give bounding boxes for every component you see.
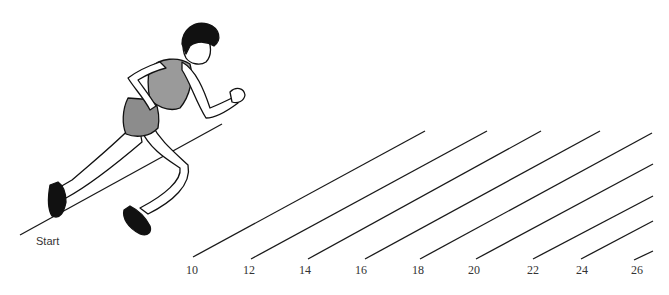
fist bbox=[230, 88, 245, 102]
distance-label-16: 16 bbox=[355, 264, 367, 276]
distance-label-18: 18 bbox=[412, 264, 424, 276]
running-track-diagram: Start 101214161820222426 bbox=[0, 0, 669, 295]
distance-label-10: 10 bbox=[186, 264, 198, 276]
back-shoe bbox=[48, 182, 66, 217]
distance-line-12 bbox=[251, 131, 487, 259]
distance-line-10 bbox=[193, 131, 425, 257]
distance-line-26 bbox=[634, 251, 653, 260]
distance-line-22 bbox=[533, 196, 653, 259]
distance-label-14: 14 bbox=[299, 264, 311, 276]
distance-label-22: 22 bbox=[527, 264, 539, 276]
distance-line-16 bbox=[365, 131, 600, 259]
distance-label-24: 24 bbox=[576, 264, 588, 276]
distance-line-20 bbox=[476, 164, 653, 259]
runner-illustration bbox=[0, 0, 669, 295]
distance-label-12: 12 bbox=[243, 264, 255, 276]
distance-line-14 bbox=[308, 131, 541, 259]
distance-label-26: 26 bbox=[631, 264, 643, 276]
start-label: Start bbox=[36, 236, 59, 247]
distance-label-20: 20 bbox=[468, 264, 480, 276]
distance-line-24 bbox=[581, 221, 653, 259]
distance-lines bbox=[193, 131, 653, 260]
